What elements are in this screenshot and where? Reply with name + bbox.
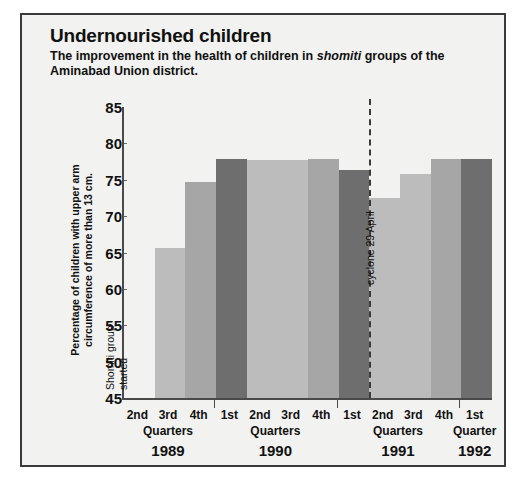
x-axis-year-divider xyxy=(459,400,460,408)
y-axis-tick-45: 45 xyxy=(88,390,122,407)
shomiti-annotation-line1: Shomiti group xyxy=(104,325,116,390)
x-axis-quarter-label-8: 2nd xyxy=(372,408,393,422)
bar-1990-1st xyxy=(216,159,247,398)
bar-1992-1st xyxy=(461,159,492,398)
y-axis-tick-80: 80 xyxy=(88,135,122,152)
bar-series xyxy=(124,107,492,398)
y-axis-tick-60: 60 xyxy=(88,280,122,297)
x-axis-quarter-label-6: 4th xyxy=(312,408,330,422)
shomiti-annotation-line2: started xyxy=(117,358,129,390)
x-axis-group-word-1990: Quarters xyxy=(250,424,300,438)
shomiti-annotation-text: Shomiti group started xyxy=(104,325,130,390)
x-axis-group-word-1989: Quarters xyxy=(143,424,193,438)
y-axis-tick-labels: 455055606570758085 xyxy=(80,15,122,469)
bar-1989-4th xyxy=(185,182,216,398)
y-axis-tick-70: 70 xyxy=(88,208,122,225)
x-axis-quarter-label-11: 1st xyxy=(466,408,483,422)
x-axis-quarter-label-3: 1st xyxy=(221,408,238,422)
subtitle-emphasis: shomiti xyxy=(317,49,361,63)
x-axis-group-year-1992: 1992 xyxy=(458,442,491,459)
bar-1991-3rd xyxy=(400,174,431,398)
y-axis-tick-65: 65 xyxy=(88,244,122,261)
bar-1989-3rd xyxy=(155,248,186,398)
y-axis-label-holder: Percentage of children with upper arm ci… xyxy=(60,135,78,385)
x-axis-year-divider xyxy=(214,400,215,408)
x-axis-quarter-label-2: 4th xyxy=(190,408,208,422)
bar-1990-3rd xyxy=(277,160,308,398)
bar-1991-4th xyxy=(431,159,462,398)
x-axis-quarter-label-7: 1st xyxy=(343,408,360,422)
x-axis-group-year-1990: 1990 xyxy=(259,442,292,459)
y-axis-tick-75: 75 xyxy=(88,171,122,188)
x-axis-year-divider xyxy=(337,400,338,408)
x-axis: 2nd3rd4th1st2nd3rd4th1st2nd3rd4th1stQuar… xyxy=(122,400,490,466)
chart-figure: Undernourished children The improvement … xyxy=(20,13,506,467)
y-axis-tick-85: 85 xyxy=(88,99,122,116)
x-axis-quarter-label-1: 3rd xyxy=(159,408,178,422)
plot-area: Shomiti group started cyclone 29 April xyxy=(122,107,492,400)
x-axis-group-word-1992: Quarter xyxy=(453,424,496,438)
x-axis-group-word-1991: Quarters xyxy=(373,424,423,438)
x-axis-group-year-1991: 1991 xyxy=(381,442,414,459)
x-axis-quarter-label-4: 2nd xyxy=(249,408,270,422)
x-axis-group-year-1989: 1989 xyxy=(151,442,184,459)
bar-1990-2nd xyxy=(247,160,278,398)
x-axis-quarter-label-0: 2nd xyxy=(127,408,148,422)
x-axis-quarter-label-9: 3rd xyxy=(404,408,423,422)
x-axis-quarter-label-10: 4th xyxy=(435,408,453,422)
x-axis-quarter-label-5: 3rd xyxy=(281,408,300,422)
shomiti-annotation: Shomiti group started xyxy=(130,270,156,390)
cyclone-annotation-text: cyclone 29 April xyxy=(364,211,376,285)
bar-1990-4th xyxy=(308,159,339,398)
